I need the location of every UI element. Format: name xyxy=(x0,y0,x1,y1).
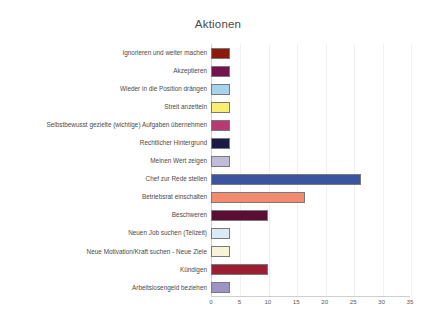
bar-track xyxy=(211,207,410,225)
bar-row: Rechtlicher Hintergrund xyxy=(0,134,426,152)
bar xyxy=(211,84,230,95)
x-tick-label: 0 xyxy=(209,299,212,305)
bar-track xyxy=(211,225,410,243)
bar-track xyxy=(211,152,410,170)
bar-category-label: Neuen Job suchen (Teilzeit) xyxy=(7,230,207,236)
bar-track xyxy=(211,116,410,134)
bar xyxy=(211,102,230,113)
bar-category-label: Selbstbewusst gezielte (wichtige) Aufgab… xyxy=(7,122,207,128)
bar-track xyxy=(211,243,410,261)
bar-category-label: Akzeptieren xyxy=(7,68,207,74)
bar-track xyxy=(211,279,410,297)
x-tick-label: 35 xyxy=(407,299,414,305)
bar-category-label: Beschweren xyxy=(7,212,207,218)
bar xyxy=(211,210,268,221)
x-tick-label: 30 xyxy=(378,299,385,305)
bar-track xyxy=(211,261,410,279)
bar xyxy=(211,156,230,167)
bar-row: Neuen Job suchen (Teilzeit) xyxy=(0,225,426,243)
x-tick-label: 25 xyxy=(350,299,357,305)
bar-row: Kündigen xyxy=(0,261,426,279)
bar-category-label: Meinen Wert zeigen xyxy=(7,158,207,164)
bar-row: Arbeitslosengeld beziehen xyxy=(0,279,426,297)
bar-row: Betriebsrat einschalten xyxy=(0,189,426,207)
bar xyxy=(211,246,230,257)
bar xyxy=(211,228,230,239)
bar xyxy=(211,138,230,149)
bar xyxy=(211,174,361,185)
bar xyxy=(211,66,230,77)
bar-track xyxy=(211,170,410,188)
bar-row: Selbstbewusst gezielte (wichtige) Aufgab… xyxy=(0,116,426,134)
bar-row: Chef zur Rede stellen xyxy=(0,170,426,188)
x-tick-label: 15 xyxy=(293,299,300,305)
bar xyxy=(211,192,305,203)
bar-row: Wieder in die Position drängen xyxy=(0,80,426,98)
bar-row: Akzeptieren xyxy=(0,62,426,80)
bar-category-label: Streit anzetteln xyxy=(7,104,207,110)
bar xyxy=(211,120,230,131)
bar-category-label: Betriebsrat einschalten xyxy=(7,194,207,200)
x-tick-label: 5 xyxy=(238,299,241,305)
bar-category-label: Neue Motivation/Kraft suchen - Neue Ziel… xyxy=(7,249,207,255)
x-tick-label: 20 xyxy=(321,299,328,305)
bar-row: Ignorieren und weiter machen xyxy=(0,44,426,62)
chart-title: Aktionen xyxy=(0,18,426,30)
bar-track xyxy=(211,44,410,62)
bar-row: Neue Motivation/Kraft suchen - Neue Ziel… xyxy=(0,243,426,261)
bar-category-label: Wieder in die Position drängen xyxy=(7,86,207,92)
bar-track xyxy=(211,189,410,207)
bar xyxy=(211,282,230,293)
bar-track xyxy=(211,134,410,152)
bar-category-label: Ignorieren und weiter machen xyxy=(7,50,207,56)
bar xyxy=(211,264,268,275)
bar-track xyxy=(211,98,410,116)
bar-category-label: Arbeitslosengeld beziehen xyxy=(7,285,207,291)
bar-category-label: Rechtlicher Hintergrund xyxy=(7,140,207,146)
x-axis-tick-labels: 05101520253035 xyxy=(211,299,410,313)
bar-row: Meinen Wert zeigen xyxy=(0,152,426,170)
bar-row: Streit anzetteln xyxy=(0,98,426,116)
bar-rows-container: Ignorieren und weiter machenAkzeptierenW… xyxy=(0,44,426,297)
bar-category-label: Kündigen xyxy=(7,267,207,273)
bar-chart: Aktionen Ignorieren und weiter machenAkz… xyxy=(0,0,426,327)
bar-category-label: Chef zur Rede stellen xyxy=(7,176,207,182)
bar xyxy=(211,48,230,59)
bar-track xyxy=(211,80,410,98)
bar-row: Beschweren xyxy=(0,207,426,225)
x-tick-label: 10 xyxy=(264,299,271,305)
bar-track xyxy=(211,62,410,80)
